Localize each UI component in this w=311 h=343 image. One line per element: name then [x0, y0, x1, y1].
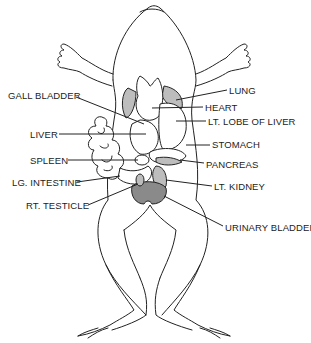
label-rt-testicle: RT. TESTICLE: [26, 201, 89, 211]
leader-rt-testicle: [88, 184, 138, 205]
frog-illustration: [0, 0, 311, 343]
label-lt-lobe-of-liver: LT. LOBE OF LIVER: [208, 117, 296, 127]
label-lt-kidney: LT. KIDNEY: [214, 182, 265, 192]
urinary-bladder: [132, 182, 167, 204]
liver: [130, 120, 158, 154]
label-liver: LIVER: [30, 130, 58, 140]
leader-lt-kidney: [166, 180, 212, 186]
leader-urinary-bladder: [164, 196, 223, 226]
leader-lung: [176, 90, 227, 100]
frog-dissection-diagram: LUNG GALL BLADDER HEART LT. LOBE OF LIVE…: [0, 0, 311, 343]
label-stomach: STOMACH: [212, 140, 260, 150]
label-urinary-bladder: URINARY BLADDER: [225, 223, 311, 233]
label-lung: LUNG: [229, 86, 256, 96]
lt-lobe-of-liver: [159, 103, 186, 150]
right-leg: [155, 265, 230, 338]
leader-pancreas: [180, 160, 204, 163]
label-gall-bladder: GALL BLADDER: [8, 91, 81, 101]
right-lung: [122, 88, 136, 118]
label-lg-intestine: LG. INTESTINE: [12, 178, 81, 188]
label-heart: HEART: [205, 103, 238, 113]
label-spleen: SPLEEN: [30, 156, 68, 166]
right-arm: [196, 44, 250, 86]
left-arm: [58, 44, 113, 86]
label-pancreas: PANCREAS: [206, 160, 258, 170]
